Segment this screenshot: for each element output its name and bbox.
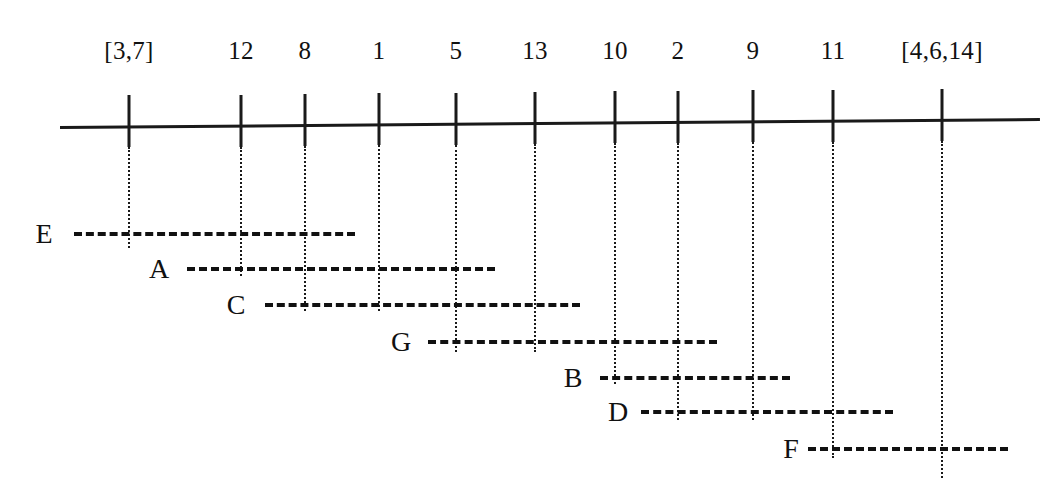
guide-line-1 <box>240 147 242 276</box>
tick-label-8: 9 <box>747 38 760 63</box>
tick-label-9: 11 <box>821 38 846 63</box>
tick-mark-10 <box>941 89 944 141</box>
tick-mark-0 <box>128 95 131 147</box>
interval-bar-e <box>74 232 355 236</box>
guide-line-4 <box>455 145 457 352</box>
interval-label-g: G <box>391 328 411 356</box>
tick-label-2: 8 <box>299 38 312 63</box>
tick-label-5: 13 <box>522 38 548 63</box>
tick-label-3: 1 <box>373 38 386 63</box>
tick-mark-1 <box>240 95 243 147</box>
tick-mark-8 <box>752 90 755 142</box>
interval-label-b: B <box>564 364 583 392</box>
guide-line-10 <box>941 141 943 478</box>
interval-bar-b <box>600 376 790 380</box>
guide-line-5 <box>534 144 536 352</box>
tick-mark-4 <box>455 93 458 145</box>
guide-line-2 <box>304 146 306 311</box>
interval-bar-g <box>428 340 717 344</box>
interval-label-e: E <box>35 220 52 248</box>
interval-bar-d <box>641 410 893 414</box>
interval-schedule-diagram: [3,7]1281513102911[4,6,14] EACGBDF <box>0 0 1064 499</box>
tick-mark-3 <box>378 93 381 145</box>
tick-label-10: [4,6,14] <box>901 38 983 63</box>
tick-label-1: 12 <box>228 38 254 63</box>
tick-label-6: 10 <box>602 38 628 63</box>
interval-label-d: D <box>608 398 628 426</box>
timeline-axis-line <box>60 118 1040 129</box>
interval-bar-c <box>265 303 580 307</box>
interval-label-f: F <box>783 435 799 463</box>
interval-label-c: C <box>227 291 246 319</box>
tick-mark-5 <box>534 92 537 144</box>
tick-mark-7 <box>677 91 680 143</box>
guide-line-3 <box>378 145 380 311</box>
tick-label-7: 2 <box>672 38 685 63</box>
interval-bar-f <box>808 447 1008 451</box>
tick-label-0: [3,7] <box>104 38 153 63</box>
interval-bar-a <box>187 267 495 271</box>
tick-mark-9 <box>832 90 835 142</box>
interval-label-a: A <box>149 255 169 283</box>
tick-mark-2 <box>304 94 307 146</box>
tick-label-4: 5 <box>450 38 463 63</box>
tick-mark-6 <box>614 91 617 143</box>
guide-line-6 <box>614 143 616 384</box>
